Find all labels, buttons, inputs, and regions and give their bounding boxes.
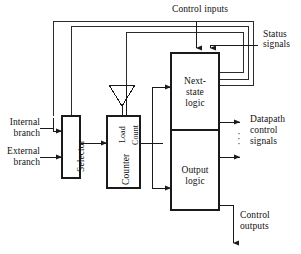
counter-count-pin-label: Count bbox=[131, 125, 140, 145]
status-signals-label-line2: signals bbox=[263, 39, 301, 50]
internal-branch-label-line1: Internal bbox=[0, 117, 40, 128]
datapath-signals-label-line3: signals bbox=[250, 136, 301, 147]
feedback-path-outer bbox=[53, 21, 253, 116]
control-unit-diagram: Control inputs Status signals Internal b… bbox=[0, 0, 301, 254]
status-signals-line bbox=[210, 45, 258, 48]
control-outputs-label-line1: Control bbox=[240, 210, 295, 221]
next-state-logic-label-line2: state bbox=[171, 87, 219, 98]
datapath-signals-ellipsis: · · · bbox=[232, 131, 246, 146]
datapath-signals-label-line2: control bbox=[250, 125, 301, 136]
status-signals-label-line1: Status bbox=[263, 29, 301, 40]
internal-branch-line bbox=[40, 118, 62, 131]
external-branch-label-line1: External bbox=[0, 146, 40, 157]
counter-block-label: Counter bbox=[121, 154, 131, 185]
next-state-logic-label-line1: Next- bbox=[171, 76, 219, 87]
control-inputs-label: Control inputs bbox=[150, 4, 250, 15]
output-logic-label-line1: Output bbox=[171, 165, 219, 176]
output-logic-label-line2: logic bbox=[171, 176, 219, 187]
datapath-signals-label-line1: Datapath bbox=[250, 114, 301, 125]
control-outputs-label-line2: outputs bbox=[240, 221, 295, 232]
external-branch-label-line2: branch bbox=[0, 157, 40, 168]
next-state-logic-label-line3: logic bbox=[171, 98, 219, 109]
counter-load-pin-label: Load bbox=[118, 126, 127, 143]
inverter-symbol bbox=[109, 85, 135, 116]
control-outputs-line bbox=[219, 205, 233, 243]
counter-output-bus bbox=[140, 87, 171, 188]
selector-block-label: Selector bbox=[76, 140, 86, 172]
internal-branch-label-line2: branch bbox=[0, 128, 40, 139]
